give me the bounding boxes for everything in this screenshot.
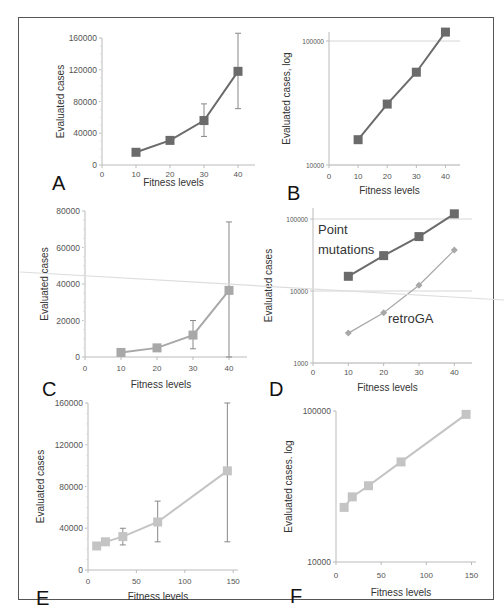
y-tick-label: 80000: [59, 482, 83, 492]
data-point: [345, 330, 352, 337]
panel-label: B: [287, 182, 300, 204]
x-tick-label: 150: [465, 571, 479, 580]
x-axis-label: Fitness levels: [357, 382, 418, 393]
x-tick-label: 0: [327, 172, 332, 181]
data-point: [383, 100, 392, 109]
annotation-point-mutations: mutations: [318, 242, 375, 257]
data-point: [354, 135, 363, 144]
data-point: [340, 503, 349, 512]
y-tick-label: 160000: [69, 33, 98, 43]
series-line: [358, 32, 445, 140]
y-tick-label: 0: [75, 352, 80, 362]
x-tick-label: 10: [132, 170, 141, 179]
y-axis-label: Evaluated cases: [39, 247, 50, 320]
y-tick-label: 0: [78, 565, 83, 575]
data-point: [225, 286, 234, 295]
y-tick-label: 40000: [73, 128, 97, 138]
y-tick-label: 80000: [56, 206, 80, 216]
data-point: [101, 537, 110, 546]
x-tick-label: 40: [450, 368, 459, 377]
x-tick-label: 40: [234, 170, 243, 179]
y-tick-label: 10000: [306, 162, 324, 169]
panel-c: 020000400006000080000010203040Fitness le…: [39, 206, 247, 400]
series-line: [136, 71, 238, 152]
x-axis-label: Fitness levels: [131, 379, 192, 390]
x-tick-label: 0: [100, 170, 105, 179]
data-point: [348, 492, 357, 501]
y-tick-label: 100000: [302, 38, 324, 45]
y-axis-label: Evaluated cases, log: [281, 52, 292, 144]
x-tick-label: 20: [379, 368, 388, 377]
panel-label: F: [290, 585, 302, 607]
x-tick-label: 50: [377, 571, 386, 580]
y-tick-label: 100000: [303, 406, 332, 416]
y-axis-label: Evaluated cases. log: [283, 440, 294, 532]
panel-b: 10000100000010203040Fitness levelsEvalua…: [281, 28, 460, 204]
x-tick-label: 30: [415, 368, 424, 377]
panel-f: 10000100000050100150Fitness levelsEvalua…: [283, 406, 479, 607]
data-point: [450, 209, 459, 218]
y-tick-label: 80000: [73, 97, 97, 107]
x-tick-label: 0: [83, 364, 88, 373]
data-point: [132, 148, 141, 157]
x-axis-label: Fitness levels: [371, 587, 432, 598]
x-axis-label: Fitness levels: [143, 177, 204, 188]
panel-label: C: [42, 378, 56, 400]
y-tick-label: 40000: [56, 279, 80, 289]
y-tick-label: 160000: [55, 398, 84, 408]
data-point: [166, 136, 175, 145]
data-point: [223, 466, 232, 475]
x-tick-label: 30: [412, 172, 421, 181]
data-point: [397, 457, 406, 466]
panel-a: 04000080000120000160000010203040Fitness …: [52, 33, 255, 194]
panel-label: E: [36, 587, 49, 609]
x-tick-label: 100: [420, 571, 434, 580]
panel-e: 04000080000120000160000050100150Fitness …: [35, 398, 240, 609]
data-point: [92, 541, 101, 550]
data-point: [200, 116, 209, 125]
data-point: [234, 67, 243, 76]
x-tick-label: 20: [383, 172, 392, 181]
panel-label: D: [269, 378, 283, 400]
x-tick-label: 0: [334, 571, 339, 580]
data-point: [344, 272, 353, 281]
x-tick-label: 150: [226, 577, 240, 586]
y-tick-label: 100000: [286, 216, 308, 223]
data-point: [117, 348, 126, 357]
scan-artifact-line: [20, 272, 504, 300]
y-tick-label: 120000: [55, 440, 84, 450]
data-point: [153, 517, 162, 526]
x-axis-label: Fitness levels: [359, 185, 420, 196]
annotation-retroga: retroGA: [388, 311, 434, 326]
panel-label: A: [52, 172, 66, 194]
x-tick-label: 0: [311, 368, 316, 377]
y-tick-label: 40000: [59, 523, 83, 533]
x-tick-label: 0: [86, 577, 91, 586]
y-tick-label: 0: [92, 160, 97, 170]
data-point: [462, 410, 471, 419]
data-point: [441, 28, 450, 37]
x-tick-label: 10: [354, 172, 363, 181]
x-axis-label: Fitness levels: [128, 591, 189, 602]
data-point: [189, 331, 198, 340]
y-tick-label: 10000: [307, 557, 331, 567]
y-axis-label: Evaluated cases: [55, 65, 66, 138]
y-tick-label: 1000: [294, 360, 309, 367]
x-tick-label: 40: [225, 364, 234, 373]
panel-d: 100010000100000010203040Fitness levelsEv…: [263, 208, 472, 400]
x-tick-label: 30: [189, 364, 198, 373]
x-tick-label: 10: [344, 368, 353, 377]
y-axis-label: Evaluated cases: [35, 450, 46, 523]
figure-canvas: 04000080000120000160000010203040Fitness …: [0, 0, 504, 614]
x-tick-label: 100: [178, 577, 192, 586]
x-tick-label: 20: [153, 364, 162, 373]
data-point: [379, 251, 388, 260]
series-line: [97, 471, 228, 546]
data-point: [415, 232, 424, 241]
y-tick-label: 20000: [56, 316, 80, 326]
series-line: [121, 290, 229, 352]
y-axis-label: Evaluated cases: [263, 249, 274, 322]
x-tick-label: 50: [132, 577, 141, 586]
y-tick-label: 60000: [56, 243, 80, 253]
data-point: [118, 532, 127, 541]
